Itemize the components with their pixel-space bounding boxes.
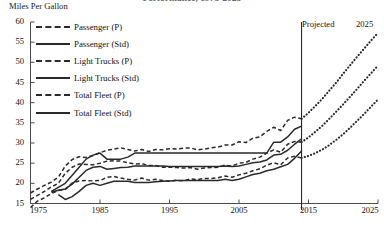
- x-tick-label: 2015: [294, 206, 324, 215]
- legend-label: Light Trucks (Std): [74, 73, 139, 83]
- y-tick-label: 60: [4, 17, 24, 26]
- x-tick-label: 1995: [155, 206, 185, 215]
- series-line: [51, 126, 301, 191]
- legend-label: Total Fleet (Std): [74, 108, 132, 118]
- chart-legend: Passenger (P)Passenger (Std)Light Trucks…: [36, 18, 139, 121]
- x-tick-label: 1985: [85, 206, 115, 215]
- legend-item[interactable]: Passenger (Std): [36, 35, 139, 52]
- legend-swatch-dashed: [36, 26, 70, 28]
- x-axis-ticks: [31, 200, 379, 204]
- legend-label: Total Fleet (P): [74, 90, 125, 100]
- x-tick-label: 1975: [24, 206, 54, 215]
- y-axis-ticks: [31, 22, 35, 204]
- y-tick-label: 35: [4, 118, 24, 127]
- fuel-economy-chart: Performance, 1975-2025 Miles Per Gallon …: [0, 0, 384, 229]
- legend-item[interactable]: Light Trucks (Std): [36, 70, 139, 87]
- legend-item[interactable]: Passenger (P): [36, 18, 139, 35]
- projected-annotation: Projected: [302, 19, 334, 29]
- y-tick-label: 25: [4, 158, 24, 167]
- y-tick-label: 15: [4, 199, 24, 208]
- y-tick-label: 55: [4, 37, 24, 46]
- x-tick-label: 2005: [224, 206, 254, 215]
- y-tick-label: 20: [4, 178, 24, 187]
- legend-label: Passenger (P): [74, 22, 122, 32]
- legend-swatch-solid: [36, 43, 70, 45]
- legend-swatch-dashed: [36, 60, 70, 62]
- legend-label: Light Trucks (P): [74, 56, 132, 66]
- legend-item[interactable]: Total Fleet (P): [36, 87, 139, 104]
- series-line: [31, 156, 302, 207]
- endpoint-year-annotation: 2025: [356, 19, 373, 29]
- legend-item[interactable]: Light Trucks (P): [36, 52, 139, 69]
- legend-label: Passenger (Std): [74, 39, 129, 49]
- legend-swatch-solid: [36, 77, 70, 79]
- legend-item[interactable]: Total Fleet (Std): [36, 104, 139, 121]
- y-tick-label: 40: [4, 98, 24, 107]
- series-line: [302, 33, 378, 119]
- x-tick-label: 2025: [355, 206, 384, 215]
- series-line: [31, 141, 302, 199]
- y-tick-label: 30: [4, 138, 24, 147]
- legend-swatch-solid: [36, 112, 70, 114]
- y-tick-label: 45: [4, 78, 24, 87]
- y-tick-label: 50: [4, 57, 24, 66]
- series-line: [58, 151, 301, 199]
- legend-swatch-dashed: [36, 94, 70, 96]
